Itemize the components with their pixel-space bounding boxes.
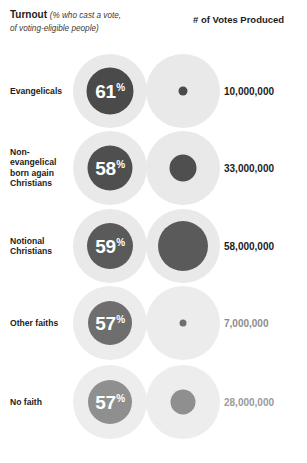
turnout-bubble-group: 59% (73, 209, 147, 283)
turnout-percent-text: 59% (95, 237, 124, 256)
turnout-bubble-group: 61% (73, 54, 147, 128)
turnout-bubble-group: 58% (73, 131, 147, 205)
percent-sign: % (116, 237, 125, 249)
chart-row: Notional Christians59%58,000,000 (0, 206, 307, 286)
votes-bubble-group (146, 209, 220, 283)
turnout-percent-circle: 58% (88, 146, 133, 191)
row-label: Non- evangelical born again Christians (10, 147, 72, 189)
votes-value-circle (179, 87, 188, 96)
turnout-percent-value: 57 (95, 314, 115, 333)
turnout-percent-text: 57% (95, 393, 124, 412)
votes-bubble-group (146, 365, 220, 439)
row-label: Other faiths (10, 318, 72, 328)
percent-sign: % (116, 393, 125, 405)
votes-value-circle (171, 390, 196, 415)
votes-value-circle (170, 155, 197, 182)
chart-row: Other faiths57%7,000,000 (0, 283, 307, 363)
turnout-percent-circle: 59% (87, 223, 133, 269)
votes-value-circle (180, 320, 187, 327)
turnout-bubble-group: 57% (73, 365, 147, 439)
votes-number-label: 28,000,000 (224, 397, 274, 408)
turnout-percent-value: 61 (95, 82, 115, 101)
votes-number-label: 10,000,000 (224, 86, 274, 97)
row-label: Evangelicals (10, 86, 72, 96)
turnout-percent-circle: 57% (88, 301, 132, 345)
turnout-percent-circle: 57% (88, 380, 132, 424)
votes-bubble-group (146, 286, 220, 360)
percent-sign: % (116, 82, 125, 94)
row-label: No faith (10, 397, 72, 407)
chart-row: Non- evangelical born again Christians58… (0, 128, 307, 208)
turnout-percent-text: 61% (95, 82, 124, 101)
chart-rows: Evangelicals61%10,000,000Non- evangelica… (0, 0, 307, 463)
chart-row: Evangelicals61%10,000,000 (0, 51, 307, 131)
turnout-percent-text: 57% (95, 314, 124, 333)
percent-sign: % (116, 159, 125, 171)
turnout-percent-text: 58% (95, 159, 124, 178)
turnout-percent-value: 57 (95, 393, 115, 412)
turnout-bubble-group: 57% (73, 286, 147, 360)
turnout-percent-value: 59 (95, 237, 115, 256)
votes-number-label: 7,000,000 (224, 318, 269, 329)
turnout-percent-value: 58 (95, 159, 115, 178)
votes-bubble-group (146, 131, 220, 205)
turnout-percent-circle: 61% (87, 68, 134, 115)
votes-number-label: 58,000,000 (224, 241, 274, 252)
votes-value-circle (158, 221, 208, 271)
chart-row: No faith57%28,000,000 (0, 362, 307, 442)
row-label: Notional Christians (10, 236, 72, 257)
votes-number-label: 33,000,000 (224, 163, 274, 174)
percent-sign: % (116, 314, 125, 326)
votes-bubble-group (146, 54, 220, 128)
